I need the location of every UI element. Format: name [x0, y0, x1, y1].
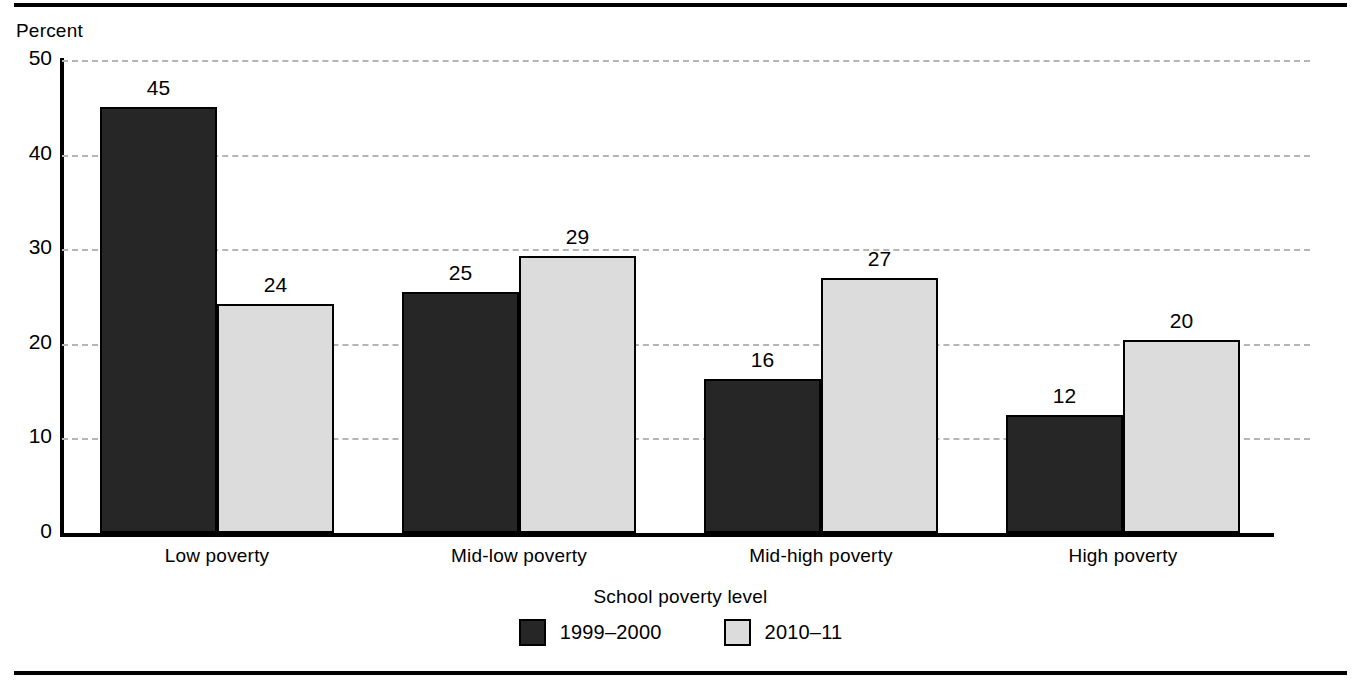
bar-2-series-2[interactable]: [519, 256, 636, 533]
y-tick-label-50: 50: [4, 46, 52, 70]
bar-value-label: 24: [216, 273, 336, 297]
y-tick-label-40: 40: [4, 141, 52, 165]
category-label-3: Mid-high poverty: [681, 545, 961, 567]
y-tick-label-10: 10: [4, 424, 52, 448]
y-tick-label-30: 30: [4, 235, 52, 259]
legend-swatch-1: [519, 619, 546, 646]
bar-4-series-1[interactable]: [1006, 415, 1123, 533]
bar-3-series-2[interactable]: [821, 278, 938, 533]
bar-value-label: 27: [820, 247, 940, 271]
category-label-2: Mid-low poverty: [379, 545, 659, 567]
bar-1-series-2[interactable]: [217, 304, 334, 533]
bottom-rule: [14, 671, 1347, 675]
bar-value-label: 16: [703, 348, 823, 372]
legend-item-1[interactable]: 1999–2000: [519, 619, 662, 646]
bar-value-label: 29: [518, 225, 638, 249]
category-label-4: High poverty: [983, 545, 1263, 567]
x-axis-line: [60, 533, 1274, 537]
bar-3-series-1[interactable]: [704, 379, 821, 533]
top-rule: [14, 3, 1347, 7]
y-tick-label-0: 0: [4, 519, 52, 543]
legend-label-1: 1999–2000: [560, 621, 662, 644]
bar-value-label: 25: [401, 261, 521, 285]
category-label-1: Low poverty: [77, 545, 357, 567]
legend-label-2: 2010–11: [765, 621, 843, 644]
bar-value-label: 45: [99, 76, 219, 100]
y-tick-label-20: 20: [4, 330, 52, 354]
bar-value-label: 20: [1122, 309, 1242, 333]
chart-legend: 1999–20002010–11: [0, 619, 1361, 646]
bar-2-series-1[interactable]: [402, 292, 519, 533]
x-axis-title: School poverty level: [0, 586, 1361, 608]
bar-value-label: 12: [1005, 384, 1125, 408]
bar-1-series-1[interactable]: [100, 107, 217, 533]
legend-swatch-2: [724, 619, 751, 646]
y-axis-title: Percent: [16, 20, 83, 42]
bar-4-series-2[interactable]: [1123, 340, 1240, 533]
legend-item-2[interactable]: 2010–11: [724, 619, 843, 646]
